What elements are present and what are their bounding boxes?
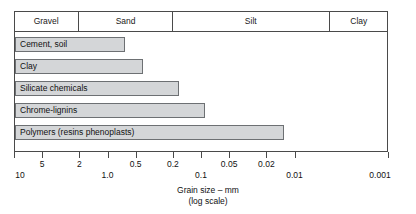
axis-tick (229, 152, 230, 158)
axis-caption-line2: (log scale) (0, 196, 416, 206)
axis-tick (388, 152, 389, 158)
axis-tick (136, 152, 137, 158)
bar-5 (15, 125, 284, 140)
axis-tick-label: 0.1 (195, 170, 207, 180)
bar-4 (15, 103, 205, 118)
axis-tick-label: 1.0 (102, 170, 114, 180)
axis-tick-label: 0.01 (286, 170, 303, 180)
axis-tick (14, 152, 15, 158)
bar-1 (15, 37, 125, 52)
soil-class-sand: Sand (79, 11, 173, 31)
bar-row: Clay (14, 59, 388, 74)
axis-tick (173, 152, 174, 158)
axis-tick-label: 0.001 (369, 170, 390, 180)
bar-2 (15, 59, 143, 74)
soil-class-silt: Silt (173, 11, 330, 31)
bar-row: Polymers (resins phenoplasts) (14, 125, 388, 140)
axis-tick-label: 0.5 (130, 159, 142, 169)
soil-class-gravel: Gravel (14, 11, 79, 31)
axis-tick-label: 5 (40, 159, 45, 169)
axis-tick (79, 152, 80, 158)
axis-caption-line1: Grain size – mm (0, 185, 416, 195)
axis-tick (42, 152, 43, 158)
axis-tick (108, 152, 109, 158)
bars-layer: Cement, soilClaySilicate chemicalsChrome… (14, 32, 388, 152)
axis-tick (201, 152, 202, 158)
x-axis: 10521.00.50.20.10.050.020.010.001 (14, 152, 388, 166)
axis-tick-label: 0.02 (258, 159, 275, 169)
bar-3 (15, 81, 179, 96)
bar-row: Chrome-lignins (14, 103, 388, 118)
bar-row: Cement, soil (14, 37, 388, 52)
soil-class-band: GravelSandSiltClay (14, 11, 388, 32)
axis-tick-label: 2 (77, 159, 82, 169)
bar-row: Silicate chemicals (14, 81, 388, 96)
axis-tick-label: 0.2 (167, 159, 179, 169)
axis-tick (266, 152, 267, 158)
grain-size-chart: GravelSandSiltClay Cement, soilClaySilic… (0, 0, 416, 214)
soil-class-clay: Clay (330, 11, 388, 31)
axis-tick-label: 10 (15, 170, 24, 180)
axis-tick-label: 0.05 (221, 159, 238, 169)
axis-tick (295, 152, 296, 158)
